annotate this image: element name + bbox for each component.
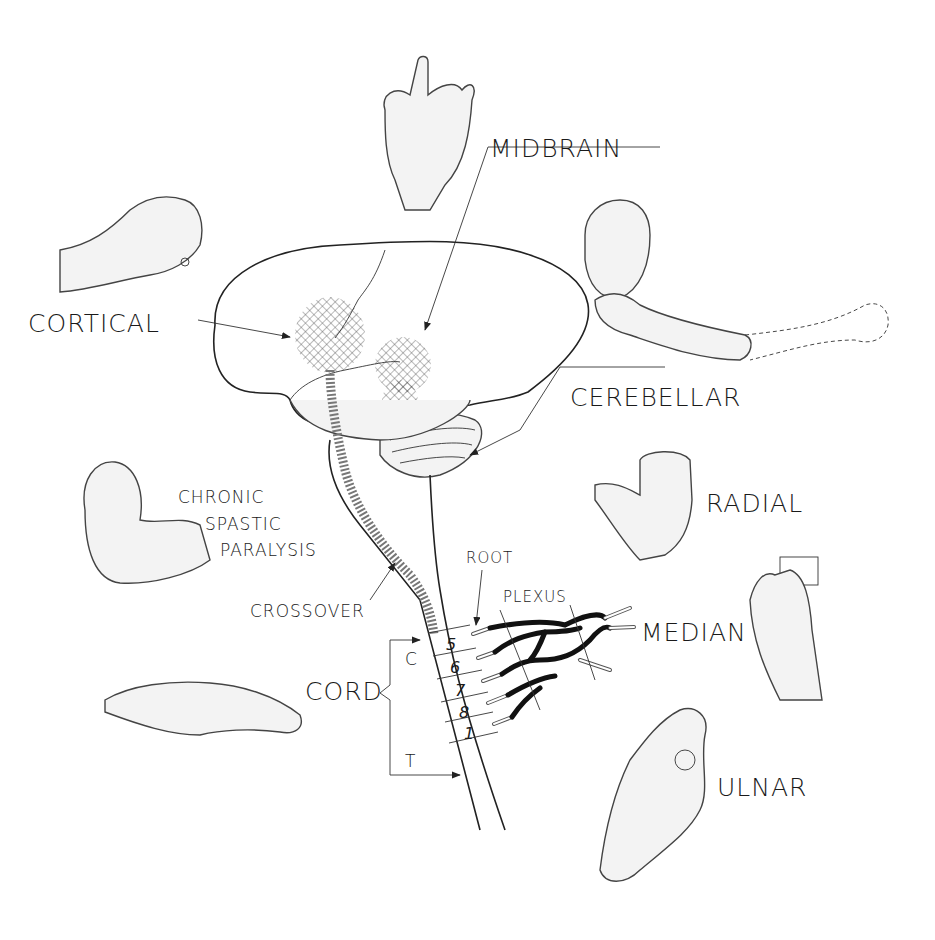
brachial-plexus (473, 605, 634, 724)
label-thoracic: T (405, 751, 416, 771)
segment-c6: 6 (450, 658, 461, 677)
label-midbrain: MIDBRAIN (490, 134, 622, 163)
cord-segments: 5 6 7 8 1 (428, 625, 498, 743)
label-crossover: CROSSOVER (250, 601, 365, 621)
label-median: MEDIAN (641, 618, 747, 647)
segment-t1: 1 (464, 724, 475, 743)
label-radial: RADIAL (706, 489, 803, 518)
label-cord: CORD (305, 677, 383, 706)
label-root: ROOT (466, 549, 513, 567)
brain (214, 241, 589, 830)
label-plexus: PLEXUS (503, 588, 567, 606)
cerebellar-figure (585, 200, 888, 360)
label-chronic: CHRONIC (178, 487, 264, 507)
flat-hand (105, 682, 301, 735)
segment-c7: 7 (455, 681, 466, 700)
label-spastic: SPASTIC (205, 514, 282, 534)
midbrain-hand (384, 56, 474, 210)
arm (595, 294, 751, 360)
label-ulnar: ULNAR (717, 773, 807, 802)
label-cervical: C (405, 649, 418, 669)
chronic-spastic-hand (84, 462, 210, 583)
cortical-lesion (295, 297, 365, 373)
head (585, 200, 650, 298)
segment-c8: 8 (459, 703, 470, 722)
label-paralysis: PARALYSIS (220, 540, 317, 560)
cortical-hand (60, 197, 202, 292)
radial-hand (595, 452, 692, 560)
ulnar-hand (600, 709, 706, 882)
brainstem-left (329, 440, 480, 830)
neuro-diagram: 5 6 7 8 1 (0, 0, 935, 940)
segment-c5: 5 (446, 635, 457, 654)
label-cerebellar: CEREBELLAR (570, 383, 742, 412)
label-cortical: CORTICAL (28, 309, 160, 338)
median-hand (750, 557, 822, 700)
arm-outline-dashed (745, 304, 888, 360)
